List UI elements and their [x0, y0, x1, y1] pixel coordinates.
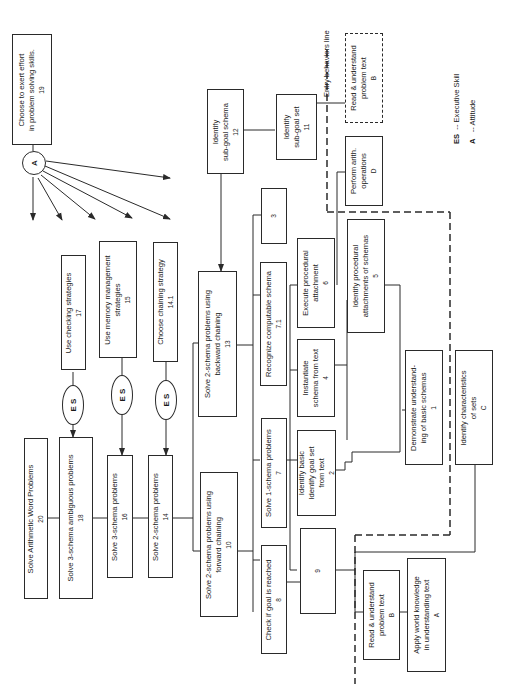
node-14-2-schema-problems[interactable]: Solve 2-schema problems14	[148, 455, 173, 578]
node-17-checking-strategies[interactable]: Use checking strategies17	[61, 255, 86, 370]
node-7-1-recognize-computable[interactable]: Recognize computable schema7.1	[260, 262, 287, 386]
entry-behaviors-line-label: Entry behaviors line	[322, 30, 331, 97]
node-9-chain-schemas[interactable]: 3	[261, 188, 287, 244]
node-b-read-understand[interactable]: Read & understandproblem textB	[363, 570, 400, 660]
node-c-characteristics-of-sets[interactable]: Identify characteristicsof setsC	[455, 350, 493, 465]
node-b-read-understand-entry[interactable]: Read & understandproblem textB	[345, 33, 383, 123]
node-16-3-schema-problems[interactable]: Solve 3-schema problems16	[107, 455, 133, 578]
node-6-execute-procedural[interactable]: Execute proceduralattachment6	[297, 238, 335, 328]
legend-es: ES -- Executive Skill	[452, 74, 461, 145]
node-18-3-schema-ambiguous[interactable]: Solve 3-schema ambiguous problems18	[59, 437, 93, 599]
node-3-identify-basic-schema[interactable]: Identify basicIdentify goal setfrom text…	[297, 430, 336, 516]
legend-attitude: A -- Attitude	[468, 100, 477, 144]
attitude-node[interactable]: A	[22, 151, 46, 175]
node-10-forward-chaining[interactable]: Solve 2-schema problems usingforward cha…	[200, 472, 238, 617]
node-14-1-chaining-strategy[interactable]: Choose chaining strategy14.1	[153, 242, 178, 362]
node-7-1-schema-problems[interactable]: Solve 1-schema problems7	[261, 418, 287, 528]
diagram-canvas: Choose to exert effortin problem solving…	[0, 0, 512, 684]
es-node-14-1[interactable]: E S	[155, 380, 177, 420]
node-15-memory-management[interactable]: Use memory managementstrategies15	[99, 241, 137, 358]
node-11-sub-goal-set[interactable]: Identifysub-goal set11	[276, 94, 317, 160]
node-12-sub-goal-schema[interactable]: Identifysub-goal schema12	[207, 89, 244, 174]
node-d-arith-operations[interactable]: Perform arith.operationsD	[345, 136, 383, 206]
node-19-choose-effort[interactable]: Choose to exert effortin problem solving…	[12, 34, 52, 145]
node-2-identify-goal-set[interactable]: 9	[300, 528, 336, 614]
es-node-17[interactable]: E S	[62, 385, 84, 425]
node-1-understand-basic-schemas[interactable]: Demonstrate understand-ing of basic sche…	[405, 350, 443, 465]
node-a-world-knowledge[interactable]: Apply world knowledgein understanding te…	[407, 558, 446, 672]
node-8-check-goal[interactable]: Check if goal is reached8	[261, 545, 287, 654]
node-4-instantiate-schema[interactable]: Instantiateschema from text4	[297, 339, 335, 417]
node-20-solve-word-problems[interactable]: Solve Arithmetic Word Problems20	[24, 438, 48, 599]
node-13-backward-chaining[interactable]: Solve 2-schema problems usingbackward ch…	[198, 271, 237, 417]
es-node-15[interactable]: E S	[111, 375, 133, 415]
node-5-procedural-attachments[interactable]: Identify proceduralattachments of schema…	[347, 219, 385, 333]
